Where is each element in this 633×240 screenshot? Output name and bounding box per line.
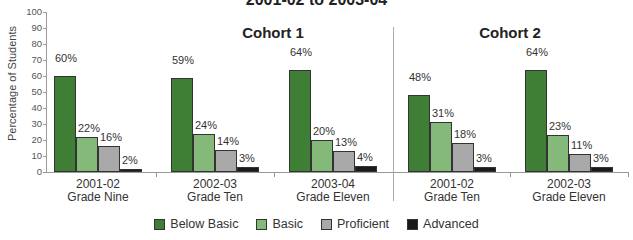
legend-swatch	[154, 219, 165, 230]
y-tick-label: 80	[14, 38, 42, 49]
value-label: 3%	[239, 152, 255, 164]
bar-advanced	[120, 169, 142, 172]
bar-proficient	[452, 143, 474, 172]
y-tick-label: 30	[14, 118, 42, 129]
value-label: 23%	[549, 120, 571, 132]
value-label: 20%	[313, 125, 335, 137]
value-label: 2%	[122, 154, 138, 166]
y-tick	[43, 28, 46, 29]
y-tick-label: 0	[14, 166, 42, 177]
chart-title: 2001-02 to 2003-04	[0, 0, 633, 9]
y-tick-label: 10	[14, 150, 42, 161]
y-tick	[43, 140, 46, 141]
value-label: 64%	[290, 46, 312, 58]
bar-below-basic	[408, 95, 430, 172]
value-label: 3%	[476, 152, 492, 164]
y-tick	[43, 76, 46, 77]
value-label: 59%	[172, 54, 194, 66]
legend-label: Advanced	[423, 217, 479, 231]
bar-basic	[76, 137, 98, 172]
category-label: 2002-03Grade Ten	[160, 178, 270, 204]
bar-proficient	[215, 150, 237, 172]
bar-advanced	[355, 166, 377, 172]
x-tick	[156, 172, 157, 177]
x-axis	[46, 172, 628, 173]
y-tick	[43, 12, 46, 13]
x-tick	[274, 172, 275, 177]
legend-item-proficient: Proficient	[321, 217, 389, 231]
legend-swatch	[321, 219, 332, 230]
cohort-2-title: Cohort 2	[450, 24, 570, 41]
value-label: 31%	[432, 107, 454, 119]
y-axis	[46, 12, 47, 172]
x-tick	[628, 172, 629, 177]
category-label: 2001-02Grade Ten	[397, 178, 507, 204]
legend-label: Basic	[272, 217, 303, 231]
value-label: 3%	[593, 152, 609, 164]
legend-item-basic: Basic	[256, 217, 303, 231]
bar-advanced	[474, 167, 496, 172]
y-tick	[43, 172, 46, 173]
value-label: 60%	[55, 52, 77, 64]
legend-item-advanced: Advanced	[407, 217, 479, 231]
bar-basic	[193, 134, 215, 172]
y-tick-label: 40	[14, 102, 42, 113]
category-label: 2001-02Grade Nine	[43, 178, 153, 204]
bar-proficient	[569, 154, 591, 172]
value-label: 48%	[409, 71, 431, 83]
y-tick	[43, 60, 46, 61]
value-label: 4%	[357, 151, 373, 163]
bar-basic	[430, 122, 452, 172]
category-label: 2003-04Grade Eleven	[278, 178, 388, 204]
legend-label: Below Basic	[170, 217, 238, 231]
bar-below-basic	[289, 70, 311, 172]
y-tick-label: 90	[14, 22, 42, 33]
bar-below-basic	[525, 70, 547, 172]
bar-advanced	[237, 167, 259, 172]
y-tick	[43, 92, 46, 93]
value-label: 24%	[195, 119, 217, 131]
value-label: 18%	[454, 128, 476, 140]
y-tick-label: 70	[14, 54, 42, 65]
bar-below-basic	[171, 78, 193, 172]
cohort-1-title: Cohort 1	[213, 24, 333, 41]
legend-item-below-basic: Below Basic	[154, 217, 238, 231]
value-label: 64%	[526, 46, 548, 58]
y-tick-label: 100	[14, 6, 42, 17]
value-label: 11%	[571, 139, 592, 151]
y-tick-label: 60	[14, 70, 42, 81]
y-tick	[43, 156, 46, 157]
value-label: 13%	[335, 136, 357, 148]
legend-swatch	[407, 219, 418, 230]
bar-proficient	[333, 151, 355, 172]
bar-below-basic	[54, 76, 76, 172]
value-label: 16%	[100, 131, 122, 143]
x-tick	[510, 172, 511, 177]
bar-basic	[311, 140, 333, 172]
cohort-divider	[393, 27, 394, 201]
legend: Below BasicBasicProficientAdvanced	[0, 217, 633, 231]
bar-basic	[547, 135, 569, 172]
legend-swatch	[256, 219, 267, 230]
y-tick	[43, 108, 46, 109]
y-tick-label: 50	[14, 86, 42, 97]
category-label: 2002-03Grade Eleven	[514, 178, 624, 204]
y-tick	[43, 44, 46, 45]
y-tick-label: 20	[14, 134, 42, 145]
value-label: 22%	[78, 122, 100, 134]
bar-advanced	[591, 167, 613, 172]
legend-label: Proficient	[337, 217, 389, 231]
value-label: 14%	[217, 135, 239, 147]
y-tick	[43, 124, 46, 125]
bar-proficient	[98, 146, 120, 172]
